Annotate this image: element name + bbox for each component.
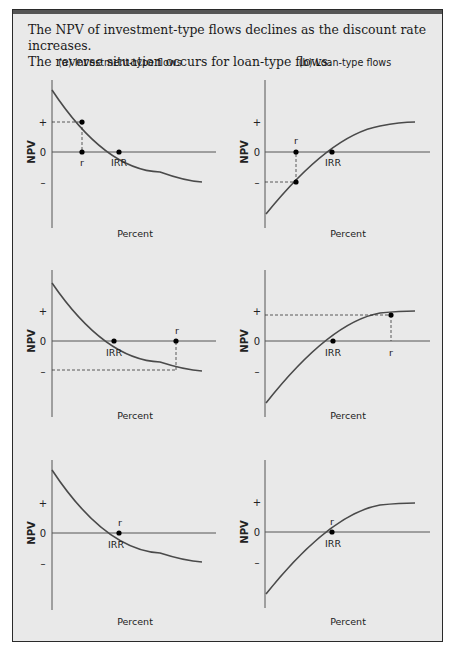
tick-minus: – bbox=[41, 177, 46, 188]
tick-zero: 0 bbox=[254, 147, 260, 158]
label-r: r bbox=[118, 517, 122, 528]
tick-minus: – bbox=[41, 558, 46, 569]
tick-plus: + bbox=[253, 306, 261, 317]
tick-minus: – bbox=[41, 366, 46, 377]
tick-zero: 0 bbox=[254, 527, 260, 538]
point-npv-at-r bbox=[79, 119, 84, 124]
chart-row3-loan: + 0 – NPV r IRR Percent bbox=[239, 460, 430, 627]
x-axis-label: Percent bbox=[330, 228, 366, 239]
chart-row2-investment: + 0 – NPV IRR r Percent bbox=[26, 270, 216, 421]
npv-curve bbox=[266, 122, 415, 214]
point-r bbox=[293, 149, 298, 154]
chart-row1-investment: + 0 – NPV r IRR Percent bbox=[26, 80, 216, 239]
tick-minus: – bbox=[255, 557, 260, 568]
tick-minus: – bbox=[255, 366, 260, 377]
tick-minus: – bbox=[255, 177, 260, 188]
tick-plus: + bbox=[253, 117, 261, 128]
point-r-irr bbox=[329, 529, 334, 534]
tick-plus: + bbox=[39, 498, 47, 509]
tick-zero: 0 bbox=[40, 336, 46, 347]
label-irr: IRR bbox=[111, 157, 127, 168]
tick-zero: 0 bbox=[254, 336, 260, 347]
chart-row2-loan: + 0 – NPV IRR r Percent bbox=[239, 270, 430, 421]
label-r: r bbox=[294, 135, 298, 146]
label-r: r bbox=[80, 157, 84, 168]
y-axis-label: NPV bbox=[26, 140, 37, 164]
x-axis-label: Percent bbox=[117, 228, 153, 239]
point-npv-at-r bbox=[388, 312, 393, 317]
chart-row1-loan: + 0 – NPV r IRR Percent bbox=[239, 80, 430, 239]
label-irr: IRR bbox=[325, 538, 341, 549]
label-r: r bbox=[330, 516, 334, 527]
tick-plus: + bbox=[39, 117, 47, 128]
label-r: r bbox=[389, 347, 393, 358]
label-irr: IRR bbox=[106, 347, 122, 358]
tick-zero: 0 bbox=[40, 528, 46, 539]
y-axis-label: NPV bbox=[239, 329, 250, 353]
tick-zero: 0 bbox=[40, 147, 46, 158]
y-axis-label: NPV bbox=[239, 140, 250, 164]
chart-row3-investment: + 0 – NPV r IRR Percent bbox=[26, 460, 216, 627]
y-axis-label: NPV bbox=[239, 520, 250, 544]
label-irr: IRR bbox=[325, 157, 341, 168]
npv-curve bbox=[52, 470, 202, 562]
npv-charts: .ax { stroke: #555; stroke-width: 1; fil… bbox=[0, 0, 457, 655]
point-irr bbox=[111, 338, 116, 343]
point-npv-at-r bbox=[293, 179, 298, 184]
point-r bbox=[173, 338, 178, 343]
y-axis-label: NPV bbox=[26, 329, 37, 353]
x-axis-label: Percent bbox=[330, 410, 366, 421]
point-irr bbox=[330, 338, 335, 343]
y-axis-label: NPV bbox=[26, 521, 37, 545]
point-r-irr bbox=[116, 530, 121, 535]
point-irr bbox=[116, 149, 121, 154]
point-r bbox=[79, 149, 84, 154]
label-irr: IRR bbox=[325, 347, 341, 358]
npv-curve bbox=[52, 90, 202, 182]
point-irr bbox=[329, 149, 334, 154]
x-axis-label: Percent bbox=[117, 616, 153, 627]
tick-plus: + bbox=[39, 306, 47, 317]
npv-curve bbox=[52, 283, 202, 371]
label-r: r bbox=[175, 325, 179, 336]
x-axis-label: Percent bbox=[117, 410, 153, 421]
x-axis-label: Percent bbox=[330, 616, 366, 627]
label-irr: IRR bbox=[108, 539, 124, 550]
tick-plus: + bbox=[253, 497, 261, 508]
